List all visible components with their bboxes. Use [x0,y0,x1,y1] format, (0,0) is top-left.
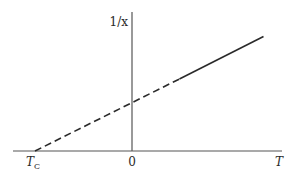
y-axis-label: 1/x [110,15,129,29]
x-tick-label-tc: TC [26,155,40,171]
y-axis-label-text: 1/x [110,15,129,29]
x-tick-label-tc-subscript: C [34,162,40,171]
chart: 1/x T TC 0 [0,0,300,173]
series-layer [35,36,263,151]
x-tick-label-zero: 0 [128,155,136,169]
x-axis-label: T [275,155,284,169]
series-line-measured [179,36,263,79]
series-line-extrapolation [35,79,179,151]
